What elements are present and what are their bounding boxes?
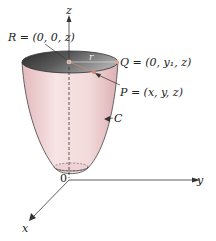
paraboloid-diagram: z y x 0 r R = (0, 0, z) Q = (0, y₁, z) P… <box>0 0 216 241</box>
x-axis <box>32 180 69 218</box>
P-label: P = (x, y, z) <box>119 86 183 99</box>
radius-label: r <box>89 52 94 62</box>
paraboloid-surface <box>22 62 118 174</box>
point-R <box>67 60 71 64</box>
C-label: C <box>114 112 123 125</box>
x-axis-arrow-icon <box>29 213 36 221</box>
z-axis-label: z <box>65 4 72 17</box>
origin-label: 0 <box>60 172 67 185</box>
R-label: R = (0, 0, z) <box>7 31 75 44</box>
x-axis-label: x <box>22 222 29 235</box>
y-axis-label: y <box>196 174 204 187</box>
point-Q <box>115 60 119 64</box>
Q-label: Q = (0, y₁, z) <box>120 56 191 69</box>
